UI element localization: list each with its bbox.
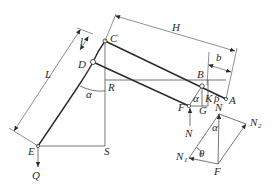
label-n-top: N	[214, 101, 223, 113]
svg-text:N: N	[175, 150, 184, 162]
label-b-point: B	[197, 68, 204, 80]
label-l-short: l	[80, 35, 83, 47]
mechanism-diagram: C D R α E S Q H b L l B A K β α F G N N …	[0, 0, 280, 192]
svg-text:2: 2	[258, 122, 262, 130]
label-a: A	[228, 94, 236, 106]
label-e: E	[27, 145, 35, 157]
label-alpha-main: α	[86, 88, 92, 100]
label-alpha-force: α	[212, 121, 218, 133]
label-n1: N 1	[175, 150, 188, 164]
label-h: H	[171, 21, 181, 33]
diagram-canvas: C D R α E S Q H b L l B A K β α F G N N …	[0, 0, 280, 192]
arm-ce	[38, 41, 105, 146]
label-q: Q	[32, 169, 40, 181]
label-l-long: L	[44, 68, 51, 80]
pin-d	[91, 60, 96, 65]
label-d: D	[77, 58, 86, 70]
angle-alpha-arc	[80, 86, 105, 91]
label-s: S	[104, 145, 110, 157]
label-c: C	[110, 32, 118, 44]
svg-text:N: N	[249, 116, 258, 128]
label-g: G	[199, 104, 207, 116]
label-k: K	[204, 92, 213, 104]
label-r: R	[107, 81, 115, 93]
pin-f	[187, 104, 190, 107]
svg-text:1: 1	[184, 156, 188, 164]
label-n2: N 2	[249, 116, 262, 130]
label-theta: θ	[199, 147, 205, 159]
pin-b	[200, 84, 204, 88]
label-f: F	[177, 101, 185, 113]
label-alpha-small: α	[193, 92, 199, 104]
label-b: b	[216, 51, 222, 63]
label-f-force: F	[213, 165, 221, 177]
label-n-main: N	[184, 127, 193, 139]
